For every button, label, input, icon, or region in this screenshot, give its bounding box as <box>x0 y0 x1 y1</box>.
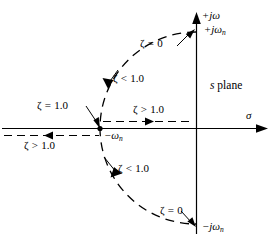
annotation-zeta-eq-1: ζ = 1.0 <box>37 100 68 111</box>
leader-zeta-eq-1 <box>86 106 100 129</box>
j-omega-axis-label: +jω <box>202 10 220 21</box>
sigma-axis-label: σ <box>246 110 251 121</box>
j-omega-axis-line <box>192 12 201 234</box>
real-axis-locus-right <box>103 118 194 126</box>
point-label-neg-j-omega-n: −jωn <box>202 221 224 232</box>
leader-zeta-eq-0-top <box>177 29 195 46</box>
s-plane-label: s plane <box>210 80 242 92</box>
sigma-axis-line <box>2 124 268 133</box>
point-label-neg-omega-n: −ωn <box>104 130 123 141</box>
s-plane-root-locus-figure: +jω +jωn ζ = 0 s plane ζ < 1.0 ζ = 1.0 ζ… <box>0 0 276 247</box>
j-omega-axis-arrowhead <box>192 12 201 24</box>
annotation-zeta-eq-0-top: ζ = 0 <box>140 38 163 49</box>
annotation-zeta-lt-1-lower: ζ < 1.0 <box>118 163 149 174</box>
locus-right-direction-arrowhead <box>145 118 154 126</box>
annotation-zeta-lt-1-upper: ζ < 1.0 <box>113 73 144 84</box>
annotation-zeta-eq-0-bottom: ζ = 0 <box>160 205 183 216</box>
point-label-pos-j-omega-n: +jωn <box>204 24 226 35</box>
annotation-zeta-gt-1-lower: ζ > 1.0 <box>24 140 55 151</box>
annotation-zeta-gt-1-upper: ζ > 1.0 <box>133 104 164 115</box>
leader-zeta-eq-0-bottom <box>181 211 196 227</box>
sigma-axis-arrowhead <box>256 124 268 133</box>
diagram-canvas <box>0 0 276 247</box>
